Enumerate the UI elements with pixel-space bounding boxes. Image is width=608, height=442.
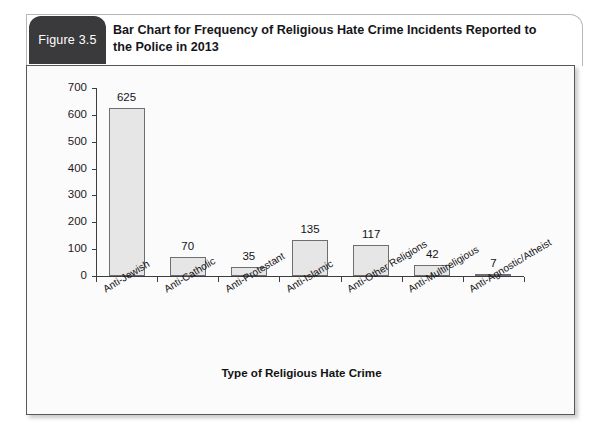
y-axis-tick: [92, 195, 96, 196]
x-axis-tick: [157, 277, 158, 282]
y-axis-tick: [92, 222, 96, 223]
x-axis-tick: [218, 277, 219, 282]
y-axis-tick: [92, 169, 96, 170]
figure-container: Figure 3.5 Bar Chart for Frequency of Re…: [0, 0, 608, 442]
y-axis-tick: [92, 249, 96, 250]
y-axis-line: [96, 88, 97, 277]
bar-value-label: 117: [341, 228, 401, 240]
y-axis-tick-label: 400: [53, 162, 87, 174]
x-axis-tick: [279, 277, 280, 282]
figure-number-label: Figure 3.5: [38, 33, 96, 47]
x-axis-tick: [463, 277, 464, 282]
y-axis-tick-label: 100: [53, 242, 87, 254]
x-axis-title: Type of Religious Hate Crime: [27, 366, 576, 379]
bar-value-label: 135: [280, 223, 340, 235]
figure-number-tab: Figure 3.5: [29, 16, 106, 64]
bar-value-label: 70: [158, 240, 218, 252]
y-axis-tick-label: 0: [53, 269, 87, 281]
bar-chart-plot: Type of Religious Hate Crime 01002003004…: [27, 66, 576, 416]
figure-body-card: Type of Religious Hate Crime 01002003004…: [26, 65, 575, 415]
y-axis-tick-label: 700: [53, 81, 87, 93]
y-axis-tick-label: 200: [53, 215, 87, 227]
y-axis-tick-label: 600: [53, 108, 87, 120]
x-axis-tick: [524, 277, 525, 282]
x-axis-tick: [402, 277, 403, 282]
figure-title: Bar Chart for Frequency of Religious Hat…: [113, 22, 538, 56]
bar-value-label: 625: [97, 91, 157, 103]
y-axis-tick: [92, 88, 96, 89]
y-axis-tick-label: 500: [53, 135, 87, 147]
bar: [109, 108, 145, 276]
y-axis-tick: [92, 142, 96, 143]
x-axis-tick: [96, 277, 97, 282]
y-axis-tick-label: 300: [53, 188, 87, 200]
x-axis-tick: [341, 277, 342, 282]
y-axis-tick: [92, 115, 96, 116]
